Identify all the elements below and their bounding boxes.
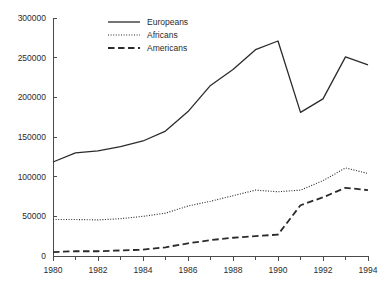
x-axis-tick-label: 1986 — [179, 265, 198, 275]
y-axis-tick-label: 200000 — [18, 92, 47, 102]
x-axis-tick-label: 1994 — [359, 265, 378, 275]
x-axis-tick-label: 1980 — [44, 265, 63, 275]
y-axis-tick-label: 50000 — [22, 211, 46, 221]
chart-background — [0, 0, 385, 291]
y-axis-tick-label: 300000 — [18, 13, 47, 23]
y-axis-tick-label: 250000 — [18, 53, 47, 63]
legend-label-europeans: Europeans — [147, 17, 188, 27]
y-axis-tick-label: 0 — [41, 251, 46, 261]
y-axis-tick-label: 100000 — [18, 172, 47, 182]
x-axis-tick-label: 1990 — [269, 265, 288, 275]
x-axis-tick-label: 1982 — [89, 265, 108, 275]
x-axis-tick-label: 1984 — [134, 265, 153, 275]
legend-label-africans: Africans — [147, 30, 178, 40]
x-axis-tick-label: 1992 — [314, 265, 333, 275]
y-axis-tick-label: 150000 — [18, 132, 47, 142]
x-axis-tick-label: 1988 — [224, 265, 243, 275]
line-chart-figure: 050000100000150000200000250000300000 198… — [0, 0, 385, 291]
chart-canvas: 050000100000150000200000250000300000 198… — [0, 0, 385, 291]
legend-label-americans: Americans — [147, 43, 187, 53]
